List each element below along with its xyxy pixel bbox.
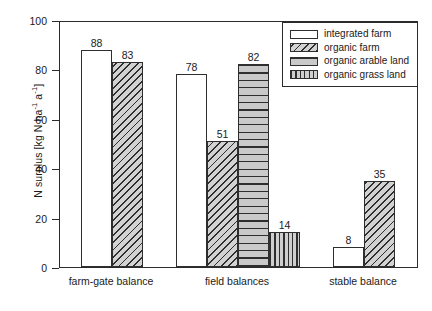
legend-item-organic-farm: organic farm [290, 42, 412, 54]
x-axis-label-stable-balance: stable balance [329, 275, 397, 287]
x-axis-label-farm-gate-balance: farm-gate balance [69, 275, 154, 287]
y-tick-label-40: 40 [35, 163, 52, 175]
legend-label-organic-arable-land: organic arable land [324, 56, 409, 66]
legend-swatch-integrated-farm-icon [290, 30, 318, 39]
bar-value-label: 82 [248, 51, 260, 63]
bar-value-label: 35 [374, 168, 386, 180]
y-tick-20: 20 [52, 219, 59, 220]
y-tick-60: 60 [52, 120, 59, 121]
bar-farm-gate-integrated-farm: 88 [81, 50, 112, 267]
legend-swatch-organic-farm-icon [290, 43, 318, 52]
x-axis-label-field-balances: field balances [205, 275, 269, 287]
y-tick-80: 80 [52, 70, 59, 71]
bar-stable-balance-organic-farm: 35 [364, 181, 395, 268]
bar-field-balances-organic-grass-land: 14 [269, 232, 300, 267]
y-axis-title-sup-1: -1 [30, 103, 39, 110]
legend-label-organic-farm: organic farm [324, 43, 380, 53]
bar-value-label: 51 [217, 128, 229, 140]
legend-item-integrated-farm: integrated farm [290, 28, 412, 40]
bar-stable-balance-integrated-farm: 8 [333, 247, 364, 267]
legend-label-integrated-farm: integrated farm [324, 29, 391, 39]
legend-item-organic-arable-land: organic arable land [290, 55, 412, 67]
y-tick-0: 0 [52, 268, 59, 269]
chart-legend: integrated farm organic farm organic ara… [282, 22, 418, 87]
bar-field-balances-organic-farm: 51 [207, 141, 238, 267]
y-axis-title-sup-2: -1 [30, 87, 39, 94]
bar-value-label: 78 [186, 61, 198, 73]
y-tick-label-0: 0 [41, 262, 52, 274]
y-tick-label-20: 20 [35, 213, 52, 225]
y-tick-100: 100 [52, 21, 59, 22]
bar-chart-figure: N surplus [kg N ha-1 a-1] 0 20 40 60 80 … [0, 0, 432, 311]
legend-item-organic-grass-land: organic grass land [290, 69, 412, 81]
bar-value-label: 88 [91, 37, 103, 49]
bar-value-label: 14 [279, 219, 291, 231]
bar-field-balances-integrated-farm: 78 [176, 74, 207, 267]
bar-value-label: 8 [346, 234, 352, 246]
legend-label-organic-grass-land: organic grass land [324, 70, 406, 80]
y-tick-label-100: 100 [29, 15, 52, 27]
y-tick-label-60: 60 [35, 114, 52, 126]
y-axis-title-mid: a [32, 94, 44, 103]
legend-swatch-organic-arable-land-icon [290, 57, 318, 66]
legend-swatch-organic-grass-land-icon [290, 70, 318, 79]
y-tick-label-80: 80 [35, 64, 52, 76]
bar-value-label: 83 [122, 49, 134, 61]
bar-farm-gate-organic-farm: 83 [112, 62, 143, 267]
y-axis-title-suffix: ] [32, 84, 44, 87]
y-tick-40: 40 [52, 169, 59, 170]
bar-field-balances-organic-arable-land: 82 [238, 64, 269, 267]
